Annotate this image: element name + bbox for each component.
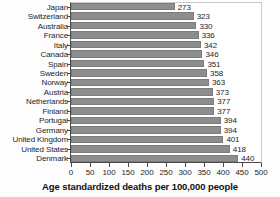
x-axis-tick — [128, 163, 129, 167]
bar-value-label: 394 — [221, 125, 237, 134]
bar-chart: Japan273Switzerland323Australia330France… — [0, 0, 280, 197]
x-axis-tick-label: 50 — [86, 168, 95, 177]
x-axis-tick-label: 350 — [197, 168, 210, 177]
bar-row: Denmark440 — [0, 154, 280, 163]
y-axis-tick — [67, 16, 70, 17]
bar-value-label: 346 — [202, 50, 218, 59]
bar-track: 336 — [71, 30, 261, 39]
y-axis-tick — [67, 120, 70, 121]
bar-row: Australia330 — [0, 21, 280, 30]
bar-row: Italy342 — [0, 40, 280, 49]
category-label: Japan — [47, 2, 68, 11]
x-axis-tick — [242, 163, 243, 167]
bar-track: 330 — [71, 21, 261, 30]
x-axis-ticks — [70, 163, 262, 167]
category-label: Australia — [38, 21, 68, 30]
x-axis-tick-label: 150 — [121, 168, 134, 177]
bar-value-label: 394 — [221, 116, 237, 125]
bar-row: Austria373 — [0, 87, 280, 96]
category-label: Italy — [54, 40, 68, 49]
screenshot-root: Japan273Switzerland323Australia330France… — [0, 0, 280, 197]
bar-value-label: 273 — [175, 2, 191, 11]
bar-value-label: 373 — [213, 87, 229, 96]
x-axis-tick — [71, 163, 72, 167]
bar-row: Portugal394 — [0, 116, 280, 125]
bar-value-label: 377 — [214, 97, 230, 106]
bar-track: 342 — [71, 40, 261, 49]
y-axis-tick — [67, 149, 70, 150]
bar-value-label: 418 — [230, 144, 246, 153]
category-label: United Kingdom — [12, 135, 68, 144]
bar-track: 358 — [71, 68, 261, 77]
x-axis-tick-label: 250 — [159, 168, 172, 177]
x-axis-tick-label: 0 — [69, 168, 73, 177]
x-axis-title: Age standardized deaths per 100,000 peop… — [0, 181, 280, 192]
y-axis-tick — [67, 139, 70, 140]
bar-track: 373 — [71, 87, 261, 96]
x-axis-tick-labels: 050100150200250300350400450500 — [70, 168, 262, 179]
bar — [71, 136, 223, 143]
category-label: Germany — [36, 125, 68, 134]
x-axis-tick — [147, 163, 148, 167]
bar — [71, 31, 199, 38]
bar-row: Sweden358 — [0, 68, 280, 77]
category-label: Austria — [44, 87, 68, 96]
bar-track: 394 — [71, 125, 261, 134]
bar-row: United Kingdom401 — [0, 135, 280, 144]
x-axis-tick — [204, 163, 205, 167]
bar-value-label: 323 — [194, 12, 210, 21]
bar — [71, 69, 207, 76]
y-axis-tick — [67, 158, 70, 159]
bar-row: Japan273 — [0, 2, 280, 11]
category-label: Finland — [42, 106, 68, 115]
category-label: Netherlands — [26, 97, 68, 106]
y-axis-tick — [67, 7, 70, 8]
bar-rows: Japan273Switzerland323Australia330France… — [0, 2, 280, 163]
bar-track: 401 — [71, 135, 261, 144]
bar — [71, 60, 204, 67]
bar-row: Germany394 — [0, 125, 280, 134]
bar — [71, 126, 221, 133]
x-axis-tick-label: 400 — [216, 168, 229, 177]
bar-value-label: 363 — [209, 78, 225, 87]
x-axis-tick — [223, 163, 224, 167]
bar-value-label: 377 — [214, 106, 230, 115]
bar-track: 377 — [71, 106, 261, 115]
bar-row: Finland377 — [0, 106, 280, 115]
bar — [71, 79, 209, 86]
bar-track: 351 — [71, 59, 261, 68]
y-axis-tick — [67, 35, 70, 36]
category-label: France — [44, 31, 68, 40]
bar-value-label: 342 — [201, 40, 217, 49]
bar — [71, 22, 196, 29]
category-label: Norway — [41, 78, 68, 87]
category-label: Spain — [48, 59, 68, 68]
bar — [71, 145, 230, 152]
x-axis-tick-label: 100 — [102, 168, 115, 177]
x-axis-tick-label: 200 — [140, 168, 153, 177]
bar — [71, 107, 214, 114]
bar-value-label: 336 — [199, 31, 215, 40]
bar — [71, 50, 202, 57]
y-axis-tick — [67, 26, 70, 27]
bar-value-label: 351 — [204, 59, 220, 68]
bar — [71, 41, 201, 48]
x-axis-tick — [185, 163, 186, 167]
y-axis-tick — [67, 54, 70, 55]
bar-row: Spain351 — [0, 59, 280, 68]
bar-track: 394 — [71, 116, 261, 125]
x-axis-tick-label: 300 — [178, 168, 191, 177]
category-label: Portugal — [39, 116, 68, 125]
bar-row: Norway363 — [0, 78, 280, 87]
bar — [71, 88, 213, 95]
category-label: United States — [21, 144, 68, 153]
bar — [71, 155, 238, 162]
bar-row: Canada346 — [0, 49, 280, 58]
bar — [71, 12, 194, 19]
x-axis-tick-label: 500 — [254, 168, 267, 177]
bar-row: France336 — [0, 30, 280, 39]
x-axis-tick-label: 450 — [235, 168, 248, 177]
x-axis-tick — [261, 163, 262, 167]
y-axis-tick — [67, 92, 70, 93]
y-axis-tick — [67, 82, 70, 83]
